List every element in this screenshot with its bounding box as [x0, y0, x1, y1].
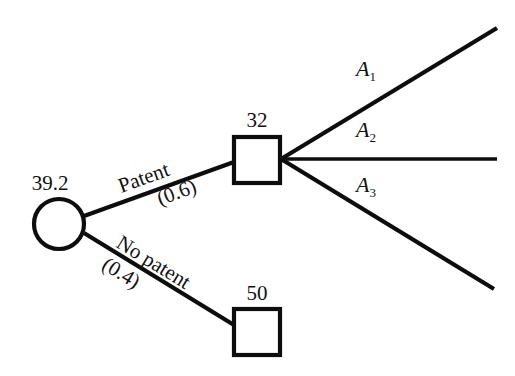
action-label-a2-letter: A [354, 117, 370, 142]
branch-label-patent-group: Patent (0.6) [115, 150, 200, 221]
chance-node-root-value: 39.2 [32, 171, 69, 195]
terminal-node-no-patent-value: 50 [247, 281, 268, 305]
action-label-a1: A1 [354, 56, 376, 84]
action-label-a3-letter: A [354, 172, 370, 197]
chance-node-root[interactable] [34, 199, 84, 249]
action-label-a1-letter: A [354, 56, 370, 81]
action-label-a2: A2 [354, 117, 376, 145]
action-label-a2-subscript: 2 [369, 130, 376, 145]
decision-node-patent-value: 32 [247, 108, 268, 132]
action-label-a3-subscript: 3 [369, 185, 376, 200]
action-label-a3: A3 [354, 172, 376, 200]
decision-node-patent[interactable] [234, 137, 280, 183]
action-label-a1-subscript: 1 [369, 69, 376, 84]
branch-line-a1 [281, 28, 497, 159]
decision-tree-diagram: 39.2 32 50 Patent (0.6) No patent (0.4) … [0, 0, 515, 376]
terminal-node-no-patent[interactable] [234, 309, 280, 355]
branch-line-a3 [281, 159, 494, 289]
